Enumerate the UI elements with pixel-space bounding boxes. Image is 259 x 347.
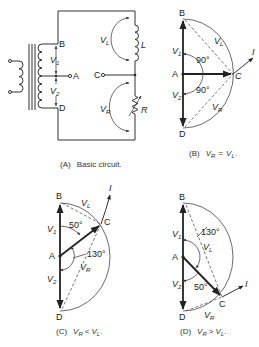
label-vr: VR	[80, 262, 91, 273]
label-d: D	[179, 312, 186, 322]
label-d: D	[179, 129, 186, 139]
label-a: A	[73, 71, 79, 81]
angle-label-lower: 90°	[196, 85, 210, 95]
inductor-l	[132, 25, 139, 61]
variable-resistor-r	[129, 96, 141, 116]
caption-d: (D)VR>VL.	[180, 327, 226, 337]
angle-arc-130	[183, 240, 200, 268]
label-v2: V2	[172, 90, 182, 101]
angle-label-50: 50°	[194, 282, 208, 292]
label-i: I	[252, 47, 255, 57]
angle-label-130: 130°	[201, 227, 220, 237]
label-d: D	[59, 103, 66, 113]
label-b: B	[59, 39, 65, 49]
vr-dashed	[186, 297, 222, 311]
panel-b-phasor-equal: B A D C I V1 V2 VL VR 90° 90° (B)VR=VL.	[172, 8, 255, 159]
caption-b: (B)VR=VL.	[189, 149, 237, 159]
label-l: L	[141, 40, 146, 50]
vr-arc	[109, 83, 129, 131]
label-vl: VL	[214, 36, 223, 47]
caption-c: (C)VR<VL.	[56, 327, 102, 337]
angle-label-upper: 90°	[196, 55, 210, 65]
label-c: C	[94, 70, 101, 80]
label-v1: V1	[172, 46, 181, 57]
label-vr: VR	[204, 310, 215, 321]
label-d: D	[56, 312, 63, 322]
panel-d-phasor-greater: B A D C I V1 V2 VL VR 130° 50° (D)VR>VL.	[172, 192, 248, 337]
label-vl: VL	[81, 198, 90, 209]
label-b: B	[179, 8, 185, 18]
vl-arc	[111, 18, 129, 60]
label-v2: V2	[172, 279, 182, 290]
label-v1: V1	[47, 224, 56, 235]
label-v2: V2	[47, 274, 57, 285]
label-v1: V1	[172, 229, 181, 240]
label-c: C	[235, 71, 242, 81]
label-v2: V2	[50, 86, 60, 97]
label-c: C	[219, 299, 226, 309]
label-a: A	[172, 252, 178, 262]
angle-label-130: 130°	[87, 249, 106, 259]
label-r: R	[141, 105, 148, 115]
label-i: I	[109, 183, 112, 193]
label-i: I	[245, 279, 248, 289]
label-a: A	[49, 251, 55, 261]
transformer-secondary	[38, 44, 72, 108]
caption-a: (A)Basic circuit.	[60, 160, 122, 169]
panel-c-phasor-less: B A D C I V1 V2 VL VR 50° 130° (C)VR<VL.	[47, 183, 112, 337]
angle-arc-50	[183, 273, 198, 281]
vl-dashed	[185, 20, 233, 74]
panel-a-basic-circuit: B A D C V1 V2 VL VR L R (A)Basic circuit…	[9, 11, 149, 169]
label-b: B	[179, 192, 185, 202]
vr-dashed	[185, 74, 233, 127]
label-b: B	[56, 191, 62, 201]
angle-label-50: 50°	[69, 220, 83, 230]
label-vl: VL	[203, 242, 212, 253]
transformer-primary	[9, 60, 24, 94]
label-v1: V1	[50, 55, 59, 66]
transformer-core	[29, 44, 35, 110]
current-i-arrow	[222, 286, 243, 297]
label-a: A	[172, 69, 178, 79]
label-vl: VL	[100, 35, 109, 46]
phase-shift-diagram: B A D C V1 V2 VL VR L R (A)Basic circuit…	[0, 0, 259, 347]
label-c: C	[104, 217, 111, 227]
label-vr: VR	[212, 102, 223, 113]
